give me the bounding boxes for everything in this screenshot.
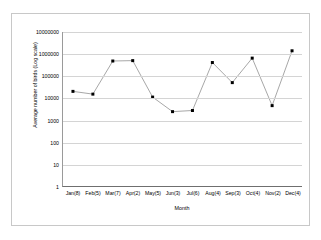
x-tick-label: Mar(7) [105,190,120,196]
x-tick-label: Dec(4) [285,190,301,196]
chart-figure: Average number of birds (Log scale) 1101… [11,13,310,226]
x-tick-label: Jan(8) [66,190,81,196]
x-tick-label: Aug(4) [205,190,221,196]
data-point-marker [231,81,234,84]
data-point-marker [131,59,134,62]
data-point-marker [191,109,194,112]
gridline [63,165,302,166]
data-point-marker [251,57,254,60]
y-tick-label: 1 [56,184,59,190]
x-tick-label: Jul(6) [187,190,200,196]
x-axis-title: Month [62,205,302,211]
gridline [63,76,302,77]
y-tick-label: 1000000 [39,51,59,57]
x-tick-label: Feb(5) [85,190,100,196]
y-tick-label: 100000 [42,73,59,79]
x-tick-label: Jun(3) [166,190,181,196]
x-tick-label: Oct(4) [246,190,260,196]
data-point-marker [111,60,114,63]
data-point-marker [71,90,74,93]
data-point-marker [291,49,294,52]
gridline [63,143,302,144]
series-polyline [73,51,292,112]
gridline [63,98,302,99]
x-tick-label: Sep(3) [225,190,241,196]
x-tick-label: Apr(2) [126,190,140,196]
data-point-marker [271,104,274,107]
data-point-marker [91,93,94,96]
x-tick-label: May(5) [145,190,161,196]
y-tick-label: 100 [50,140,59,146]
data-point-marker [171,110,174,113]
plot-area: 110100100010000100000100000010000000Jan(… [62,32,302,187]
y-tick-label: 10000 [45,95,59,101]
y-tick-label: 10 [53,162,59,168]
x-tick-label: Nov(2) [265,190,281,196]
gridline [63,121,302,122]
gridline [63,54,302,55]
y-tick-label: 10000000 [36,29,59,35]
gridline [63,32,302,33]
data-point-marker [211,61,214,64]
y-tick-label: 1000 [47,118,59,124]
